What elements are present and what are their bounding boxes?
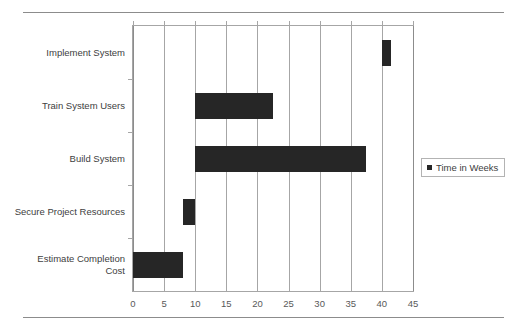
bar bbox=[195, 93, 273, 119]
bar bbox=[382, 40, 391, 66]
bar bbox=[195, 146, 366, 172]
top-tick-25 bbox=[289, 21, 290, 26]
top-tick-5 bbox=[164, 21, 165, 26]
gantt-bar-chart-figure: Implement SystemTrain System UsersBuild … bbox=[0, 0, 526, 328]
x-tick-label-35: 35 bbox=[336, 298, 366, 309]
chart-legend: Time in Weeks bbox=[421, 158, 505, 177]
y-tick-3 bbox=[128, 185, 133, 186]
bar bbox=[133, 252, 183, 278]
x-tick-label-0: 0 bbox=[118, 298, 148, 309]
x-tick-label-5: 5 bbox=[149, 298, 179, 309]
x-tick-label-45: 45 bbox=[398, 298, 428, 309]
category-label: Train System Users bbox=[0, 100, 125, 112]
x-tick-label-20: 20 bbox=[242, 298, 272, 309]
top-tick-30 bbox=[320, 21, 321, 26]
top-tick-0 bbox=[133, 21, 134, 26]
top-tick-45 bbox=[413, 21, 414, 26]
top-divider-rule bbox=[23, 12, 504, 13]
gridline-40 bbox=[382, 26, 383, 291]
plot-area: Implement SystemTrain System UsersBuild … bbox=[132, 25, 414, 292]
legend-label: Time in Weeks bbox=[436, 162, 498, 173]
top-tick-35 bbox=[351, 21, 352, 26]
top-tick-40 bbox=[382, 21, 383, 26]
gridline-45 bbox=[413, 26, 414, 291]
legend-square-marker-icon bbox=[427, 165, 432, 170]
top-tick-20 bbox=[257, 21, 258, 26]
x-tick-label-10: 10 bbox=[180, 298, 210, 309]
category-label: Estimate Completion Cost bbox=[0, 253, 125, 277]
category-label: Implement System bbox=[0, 47, 125, 59]
y-tick-1 bbox=[128, 79, 133, 80]
bottom-divider-rule bbox=[23, 317, 504, 318]
top-tick-15 bbox=[226, 21, 227, 26]
y-tick-4 bbox=[128, 238, 133, 239]
x-tick-label-15: 15 bbox=[211, 298, 241, 309]
top-tick-10 bbox=[195, 21, 196, 26]
x-tick-label-25: 25 bbox=[274, 298, 304, 309]
category-label: Build System bbox=[0, 153, 125, 165]
x-tick-label-30: 30 bbox=[305, 298, 335, 309]
y-tick-2 bbox=[128, 132, 133, 133]
bar bbox=[183, 199, 195, 225]
category-label: Secure Project Resources bbox=[0, 206, 125, 218]
x-tick-label-40: 40 bbox=[367, 298, 397, 309]
